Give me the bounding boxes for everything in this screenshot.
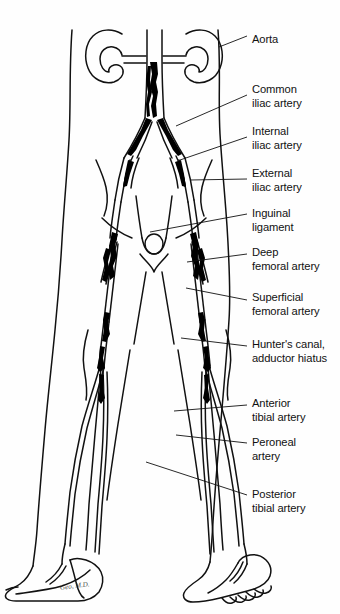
knee-contour-right (226, 330, 231, 400)
label-external-iliac-line2: iliac artery (252, 180, 302, 194)
label-anterior-tibial-line2: tibial artery (252, 410, 305, 424)
plaque-popliteal-left (97, 346, 105, 372)
calf-inner-left (107, 350, 130, 500)
leader-line-aorta (219, 36, 247, 47)
label-anterior-tibial: Anteriortibial artery (252, 396, 305, 424)
label-internal-iliac-line2: iliac artery (252, 138, 302, 152)
leader-line-hunters-canal (181, 338, 247, 346)
peroneal-left (86, 368, 101, 550)
perineum (140, 254, 168, 272)
common-femoral-right (194, 200, 199, 238)
dorsalis-pedis-left-b (50, 566, 66, 584)
anterior-tibial-left (65, 366, 100, 544)
groin-contour-left (136, 196, 142, 238)
label-deep-femoral-line1: Deep (252, 245, 320, 259)
plaque-deposits (97, 62, 211, 404)
leader-line-anterior-tibial (174, 405, 247, 411)
ankle-right (244, 544, 247, 564)
thigh-inner-left (134, 272, 146, 344)
label-common-iliac: Commoniliac artery (252, 82, 302, 110)
label-peroneal-line2: artery (252, 449, 296, 463)
body-outline-left (33, 30, 72, 566)
leader-line-peroneal (176, 435, 247, 443)
plaque-bifurcation-left (127, 118, 152, 156)
groin-contour-right (166, 196, 172, 238)
label-aorta-line1: Aorta (252, 32, 278, 46)
groin-ellipse (145, 234, 163, 254)
anatomy-diagram-page: AortaCommoniliac arteryInternaliliac art… (0, 0, 340, 614)
label-anterior-tibial-line1: Anterior (252, 396, 305, 410)
label-inguinal-ligament: Inguinalligament (252, 206, 294, 234)
kidney-right (185, 30, 222, 83)
label-external-iliac: Externaliliac artery (252, 166, 302, 194)
label-internal-iliac-line1: Internal (252, 124, 302, 138)
plaque-bifurcation-right (157, 118, 182, 156)
label-aorta: Aorta (252, 32, 278, 46)
dorsalis-pedis-left (46, 564, 62, 582)
label-superficial-femoral-line2: femoral artery (252, 304, 320, 318)
label-external-iliac-line1: External (252, 166, 302, 180)
label-peroneal: Peronealartery (252, 435, 296, 463)
leader-line-internal-iliac (180, 137, 247, 160)
anterior-tibial-right (209, 366, 244, 544)
label-hunters-canal: Hunter's canal,adductor hiatus (252, 337, 327, 365)
label-peroneal-line1: Peroneal (252, 435, 296, 449)
label-superficial-femoral: Superficialfemoral artery (252, 290, 320, 318)
pelvic-brim-left (96, 160, 107, 216)
kidney-left (86, 30, 123, 83)
label-common-iliac-line2: iliac artery (252, 96, 302, 110)
label-hunters-canal-line2: adductor hiatus (252, 351, 327, 365)
ankle-left (62, 544, 65, 564)
label-posterior-tibial-line2: tibial artery (252, 501, 305, 515)
calf-inner-right (178, 350, 201, 500)
peroneal-right (208, 368, 223, 550)
leader-line-external-iliac (190, 179, 247, 180)
label-inguinal-ligament-line1: Inguinal (252, 206, 294, 220)
leader-line-common-iliac (176, 95, 247, 126)
label-superficial-femoral-line1: Superficial (252, 290, 320, 304)
label-posterior-tibial: Posteriortibial artery (252, 487, 305, 515)
label-common-iliac-line1: Common (252, 82, 302, 96)
label-deep-femoral-line2: femoral artery (252, 259, 320, 273)
thigh-inner-right (162, 272, 174, 344)
aorta-wall-right (162, 30, 164, 118)
label-internal-iliac: Internaliliac artery (252, 124, 302, 152)
knee-contour-left (83, 330, 88, 400)
pelvic-brim-right (201, 160, 212, 216)
label-posterior-tibial-line1: Posterior (252, 487, 305, 501)
leader-line-superficial-femoral (186, 288, 247, 300)
label-hunters-canal-line1: Hunter's canal, (252, 337, 327, 351)
label-inguinal-ligament-line2: ligament (252, 220, 294, 234)
label-deep-femoral: Deepfemoral artery (252, 245, 320, 273)
